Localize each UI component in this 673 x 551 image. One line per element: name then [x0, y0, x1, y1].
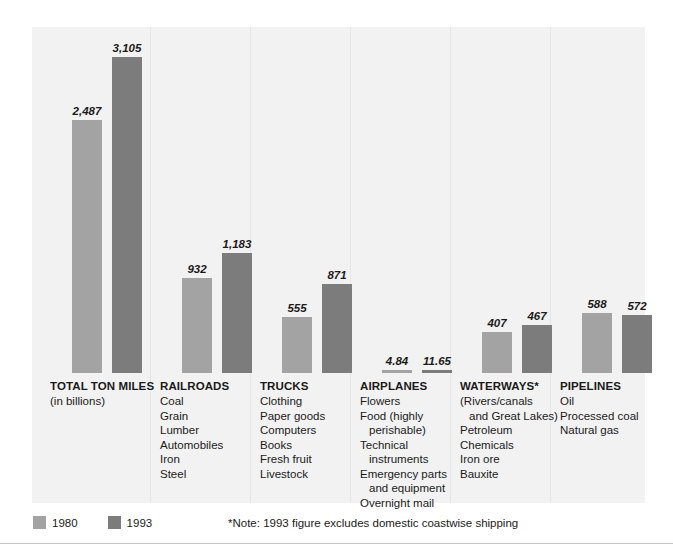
bar-1993[interactable]: [522, 325, 552, 373]
group-list-item: Livestock: [260, 467, 360, 482]
chart-group-airplanes: 4.8411.65AIRPLANESFlowersFood (highlyper…: [360, 27, 460, 503]
group-list-item: Automobiles: [160, 438, 260, 453]
bar-area: 9321,183: [160, 27, 260, 373]
chart-group-railroads: 9321,183RAILROADSCoalGrainLumberAutomobi…: [160, 27, 260, 503]
chart-groups: 2,4873,105TOTAL TON MILES(in billions)93…: [32, 27, 645, 503]
group-list-item: Paper goods: [260, 409, 360, 424]
bar-group-1980: 588: [582, 298, 612, 373]
group-list-item: and Great Lakes): [460, 409, 560, 424]
group-title: TRUCKS: [260, 379, 360, 393]
bar-1980[interactable]: [182, 278, 212, 373]
bar-1993[interactable]: [622, 315, 652, 373]
group-list-item: (Rivers/canals: [460, 394, 560, 409]
group-list-item: Grain: [160, 409, 260, 424]
group-title: WATERWAYS*: [460, 379, 560, 393]
bar-area: 588572: [560, 27, 660, 373]
bar-1993[interactable]: [322, 284, 352, 373]
group-list-item: Iron ore: [460, 452, 560, 467]
group-list-item: Coal: [160, 394, 260, 409]
bar-area: 2,4873,105: [50, 27, 150, 373]
bar-value-label: 407: [487, 317, 506, 330]
group-subtitle: (in billions): [50, 394, 150, 409]
group-label-block: RAILROADSCoalGrainLumberAutomobilesIronS…: [160, 379, 260, 481]
bar-1980[interactable]: [282, 317, 312, 373]
group-list-item: Steel: [160, 467, 260, 482]
bar-group-1980: 2,487: [72, 105, 102, 373]
bar-group-1993: 1,183: [222, 238, 252, 373]
bar-1980[interactable]: [72, 120, 102, 373]
bar-value-label: 11.65: [423, 355, 451, 368]
bar-1980[interactable]: [382, 370, 412, 373]
group-list-item: Clothing: [260, 394, 360, 409]
bar-area: 555871: [260, 27, 360, 373]
group-list-item: Natural gas: [560, 423, 660, 438]
bar-1993[interactable]: [422, 370, 452, 373]
group-list-item: Petroleum: [460, 423, 560, 438]
group-list-item: Emergency parts: [360, 467, 460, 482]
legend-item-1993[interactable]: 1993: [108, 516, 153, 529]
group-list-item: Oil: [560, 394, 660, 409]
group-list-item: perishable): [360, 423, 460, 438]
chart-group-total-ton-miles: 2,4873,105TOTAL TON MILES(in billions): [50, 27, 150, 503]
bar-1980[interactable]: [482, 332, 512, 373]
group-title: AIRPLANES: [360, 379, 460, 393]
bar-group-1993: 467: [522, 310, 552, 373]
bar-1980[interactable]: [582, 313, 612, 373]
group-list-item: Flowers: [360, 394, 460, 409]
group-list-item: Chemicals: [460, 438, 560, 453]
legend-item-1980[interactable]: 1980: [33, 516, 78, 529]
chart-footnote: *Note: 1993 figure excludes domestic coa…: [228, 517, 518, 529]
group-label-block: AIRPLANESFlowersFood (highlyperishable)T…: [360, 379, 460, 510]
bar-group-1993: 11.65: [422, 355, 452, 373]
group-label-block: WATERWAYS*(Rivers/canalsand Great Lakes)…: [460, 379, 560, 481]
group-list-item: Iron: [160, 452, 260, 467]
chart-group-pipelines: 588572PIPELINESOilProcessed coalNatural …: [560, 27, 660, 503]
bar-area: 4.8411.65: [360, 27, 460, 373]
group-list-item: Fresh fruit: [260, 452, 360, 467]
bottom-rule: [0, 543, 673, 544]
group-label-block: TRUCKSClothingPaper goodsComputersBooksF…: [260, 379, 360, 481]
bar-group-1980: 932: [182, 263, 212, 373]
chart-group-waterways: 407467WATERWAYS*(Rivers/canalsand Great …: [460, 27, 560, 503]
bar-value-label: 3,105: [113, 42, 142, 55]
group-list-item: Processed coal: [560, 409, 660, 424]
bar-group-1993: 3,105: [112, 42, 142, 373]
group-title: TOTAL TON MILES: [50, 379, 150, 393]
bar-value-label: 932: [187, 263, 206, 276]
bar-group-1993: 572: [622, 300, 652, 373]
bar-1993[interactable]: [222, 253, 252, 373]
bar-1993[interactable]: [112, 57, 142, 373]
group-list-item: Food (highly: [360, 409, 460, 424]
bar-group-1980: 4.84: [382, 355, 412, 373]
group-title: RAILROADS: [160, 379, 260, 393]
group-list-item: Overnight mail: [360, 496, 460, 511]
legend-swatch-1980: [33, 516, 46, 529]
chart-legend: 19801993: [33, 516, 174, 529]
bar-value-label: 4.84: [386, 355, 408, 368]
bar-value-label: 2,487: [73, 105, 102, 118]
group-list-item: Computers: [260, 423, 360, 438]
bar-value-label: 871: [327, 269, 346, 282]
group-label-block: PIPELINESOilProcessed coalNatural gas: [560, 379, 660, 438]
bar-group-1993: 871: [322, 269, 352, 373]
chart-group-trucks: 555871TRUCKSClothingPaper goodsComputers…: [260, 27, 360, 503]
group-list-item: Books: [260, 438, 360, 453]
group-title: PIPELINES: [560, 379, 660, 393]
group-label-block: TOTAL TON MILES(in billions): [50, 379, 150, 409]
legend-label-1993: 1993: [127, 517, 153, 529]
group-list-item: Bauxite: [460, 467, 560, 482]
group-list-item: Lumber: [160, 423, 260, 438]
legend-label-1980: 1980: [52, 517, 78, 529]
group-list-item: and equipment: [360, 481, 460, 496]
chart-root: 2,4873,105TOTAL TON MILES(in billions)93…: [0, 0, 673, 551]
group-list-item: instruments: [360, 452, 460, 467]
bar-value-label: 555: [287, 302, 306, 315]
bar-value-label: 588: [587, 298, 606, 311]
bar-value-label: 1,183: [223, 238, 252, 251]
bar-area: 407467: [460, 27, 560, 373]
bar-value-label: 467: [527, 310, 546, 323]
group-list-item: Technical: [360, 438, 460, 453]
legend-swatch-1993: [108, 516, 121, 529]
bar-group-1980: 555: [282, 302, 312, 373]
bar-value-label: 572: [627, 300, 646, 313]
